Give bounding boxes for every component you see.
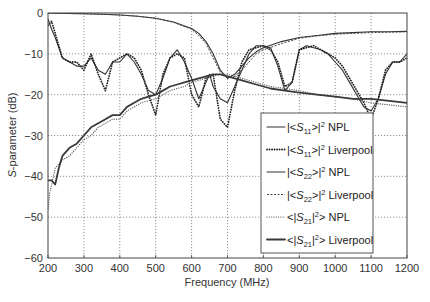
legend: |<S11>|2 NPL|<S11>|2 Liverpool|<S22>|2 N…	[261, 113, 373, 253]
y-tick-label: −20	[24, 89, 43, 101]
y-axis-ticks: 0−10−20−30−40−50−60	[24, 7, 43, 264]
x-axis-label: Frequency (MHz)	[185, 276, 270, 288]
y-tick-label: −30	[24, 130, 43, 142]
x-tick-label: 300	[75, 262, 93, 274]
y-tick-label: −50	[24, 211, 43, 223]
y-tick-label: −60	[24, 252, 43, 264]
x-tick-label: 800	[254, 262, 272, 274]
s-parameter-chart: 200300400500600700800900100011001200 0−1…	[0, 0, 430, 302]
y-tick-label: −40	[24, 170, 43, 182]
x-tick-label: 1100	[359, 262, 383, 274]
y-tick-label: 0	[37, 7, 43, 19]
x-tick-label: 600	[182, 262, 200, 274]
y-axis-label: S-parameter (dB)	[6, 93, 18, 178]
x-tick-label: 1000	[323, 262, 347, 274]
x-tick-label: 400	[111, 262, 129, 274]
y-axis-label-text: -parameter (dB)	[6, 93, 18, 171]
x-tick-label: 1200	[395, 262, 419, 274]
y-tick-label: −10	[24, 48, 43, 60]
x-tick-label: 900	[290, 262, 308, 274]
x-tick-label: 700	[218, 262, 236, 274]
x-tick-label: 500	[147, 262, 165, 274]
